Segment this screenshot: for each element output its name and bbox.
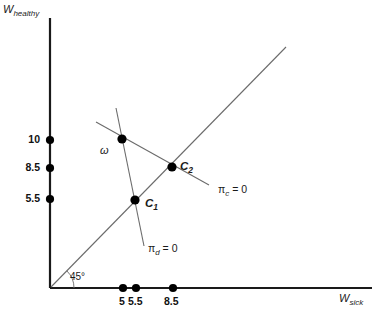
angle-label-45: 45° [70,272,85,282]
y-axis-label: Whealthy [3,4,39,18]
point-omega [117,134,126,143]
pi-d-zero-line [116,108,144,246]
x-tick-dot-8point5 [169,284,177,292]
y-axis-label-main: W [3,3,13,15]
pi-d-tail: = 0 [160,242,178,254]
y-tick-label-10: 10 [8,134,40,145]
x-tick-label-5point5: 5.5 [128,296,143,307]
point-C1 [130,195,139,204]
pi-c-tail: = 0 [229,183,247,195]
x-axis-label: Wsick [339,293,363,307]
y-tick-dot-8point5 [46,164,54,172]
y-tick-dot-5point5 [46,195,54,203]
point-label-C2-sub: 2 [188,165,193,175]
pi-c-zero-line [96,122,209,185]
x-tick-label-8point5: 8.5 [164,296,179,307]
pi-d-zero-label: πd = 0 [148,243,178,257]
point-C2 [167,162,176,171]
x-tick-dot-5 [119,284,127,292]
point-label-C2: C2 [180,161,193,175]
point-label-C1: C1 [145,198,158,212]
x-tick-label-5: 5 [119,296,125,307]
x-axis-label-sub: sick [349,298,363,307]
y-axis-label-sub: healthy [13,9,39,18]
point-label-C1-sub: 1 [153,202,158,212]
y-tick-label-8point5: 8.5 [8,162,40,173]
x-tick-dot-5point5 [132,284,140,292]
pi-c-zero-label: πc = 0 [218,184,247,198]
y-tick-dot-10 [46,136,54,144]
x-axis-label-main: W [339,292,349,304]
y-tick-label-5point5: 5.5 [8,193,40,204]
economics-diagram: Whealthy Wsick 10 8.5 5.5 5 5.5 8.5 ω C2… [0,0,382,321]
point-label-omega: ω [100,145,109,156]
